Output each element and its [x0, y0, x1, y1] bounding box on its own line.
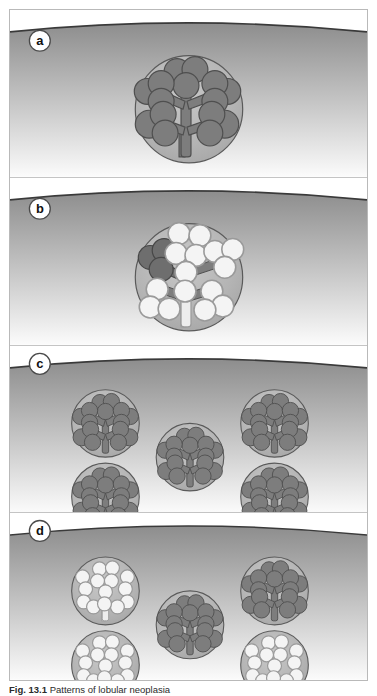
panel-label-b: b — [36, 201, 44, 216]
panel-c-illustration: c — [10, 346, 367, 513]
panel-c: c — [10, 346, 367, 514]
lobule-top-left-neoplastic — [72, 557, 140, 625]
figure-caption-text: Patterns of lobular neoplasia — [50, 684, 170, 695]
lobule-center — [156, 591, 224, 659]
panel-label-badge-a: a — [29, 30, 50, 51]
lobule-central — [134, 56, 242, 163]
lobule-center — [156, 423, 224, 490]
lobule-top-right — [241, 557, 309, 625]
panel-label-badge-c: c — [29, 353, 50, 374]
panel-b-illustration: b — [10, 178, 367, 345]
panel-d: d — [10, 513, 367, 680]
figure-root: a — [0, 0, 377, 696]
panel-label-c: c — [36, 356, 43, 371]
panel-label-a: a — [36, 33, 44, 48]
figure-caption-label: Fig. 13.1 — [9, 684, 47, 695]
panel-b: b — [10, 178, 367, 346]
panel-d-illustration: d — [10, 513, 367, 680]
panel-label-d: d — [36, 524, 44, 539]
panel-label-badge-d: d — [29, 521, 50, 542]
lobule-top-right — [241, 389, 309, 456]
figure-frame: a — [9, 9, 368, 681]
panel-a-illustration: a — [10, 10, 367, 177]
panel-a: a — [10, 10, 367, 178]
panel-label-badge-b: b — [29, 198, 50, 219]
lobule-top-left — [72, 389, 140, 456]
figure-caption: Fig. 13.1 Patterns of lobular neoplasia — [9, 684, 368, 696]
